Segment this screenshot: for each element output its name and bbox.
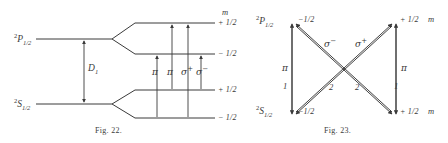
- term-symbol-lower: 2S1/2: [256, 105, 272, 119]
- m-value-lower-right: + 1/2: [400, 108, 419, 116]
- m-column-header: m: [222, 8, 228, 17]
- transition-label-sigma-plus: σ+: [181, 66, 193, 77]
- m-value-lower-left: −1/2: [298, 108, 314, 116]
- transition-label-sigma-plus: σ+: [355, 38, 367, 49]
- figure-22-caption: Fig. 22.: [95, 126, 122, 135]
- transition-superscript: −: [330, 37, 336, 45]
- term-symbol-lower: 2S1/2: [14, 98, 30, 112]
- figure-23: 2P1/2 2S1/2 −1/2 + 1/2 m −1/2 + 1/2 m π …: [240, 0, 448, 143]
- term-symbol-upper: 2P1/2: [256, 15, 273, 29]
- transition-superscript: −: [202, 65, 208, 73]
- intensity-sigma-plus: 2: [355, 83, 359, 92]
- transition-superscript: +: [187, 65, 193, 73]
- transition-label-pi-left: π: [282, 62, 288, 73]
- intensity-pi-left: 1: [283, 82, 287, 91]
- transition-label-sigma-minus: σ−: [324, 38, 336, 49]
- interval-label-D1: D1: [88, 64, 98, 75]
- term-subscript: 1/2: [264, 111, 272, 118]
- m-value-lower-minus: − 1/2: [218, 114, 237, 122]
- term-symbol-upper: 2P1/2: [14, 33, 31, 47]
- transition-label-pi-1: π: [152, 66, 158, 77]
- interval-subscript: 1: [95, 68, 98, 75]
- transition-glyph: π: [282, 63, 288, 73]
- m-value-upper-right: + 1/2: [400, 16, 419, 24]
- term-subscript: 1/2: [23, 39, 31, 46]
- term-subscript: 1/2: [22, 104, 30, 111]
- transition-glyph: π: [152, 67, 158, 77]
- transition-label-sigma-minus: σ−: [196, 66, 208, 77]
- m-value-upper-minus: − 1/2: [218, 50, 237, 58]
- transition-label-pi-right: π: [401, 62, 407, 73]
- fan-lower-down: [112, 104, 135, 118]
- interval-letter: D: [88, 63, 95, 73]
- intensity-pi-right: 1: [394, 82, 398, 91]
- m-value-upper-plus: + 1/2: [218, 19, 237, 27]
- figure-plate: 2P1/2 2S1/2 D1 m + 1/2 − 1/2 + 1/2 − 1/2…: [0, 0, 448, 143]
- transition-glyph: π: [401, 63, 407, 73]
- transition-superscript: +: [361, 37, 367, 45]
- transition-label-pi-2: π: [167, 66, 173, 77]
- transition-glyph: π: [167, 67, 173, 77]
- figure-22: 2P1/2 2S1/2 D1 m + 1/2 − 1/2 + 1/2 − 1/2…: [0, 0, 240, 143]
- term-subscript: 1/2: [265, 21, 273, 28]
- m-value-lower-plus: + 1/2: [218, 86, 237, 94]
- m-column-header-upper: m: [428, 15, 434, 24]
- figure-23-caption: Fig. 23.: [324, 126, 351, 135]
- fan-lower-up: [112, 90, 135, 104]
- m-value-upper-left: −1/2: [298, 16, 314, 24]
- intensity-sigma-minus: 2: [329, 83, 333, 92]
- m-column-header-lower: m: [428, 107, 434, 116]
- fan-upper-down: [112, 39, 135, 54]
- fan-upper-up: [112, 23, 135, 39]
